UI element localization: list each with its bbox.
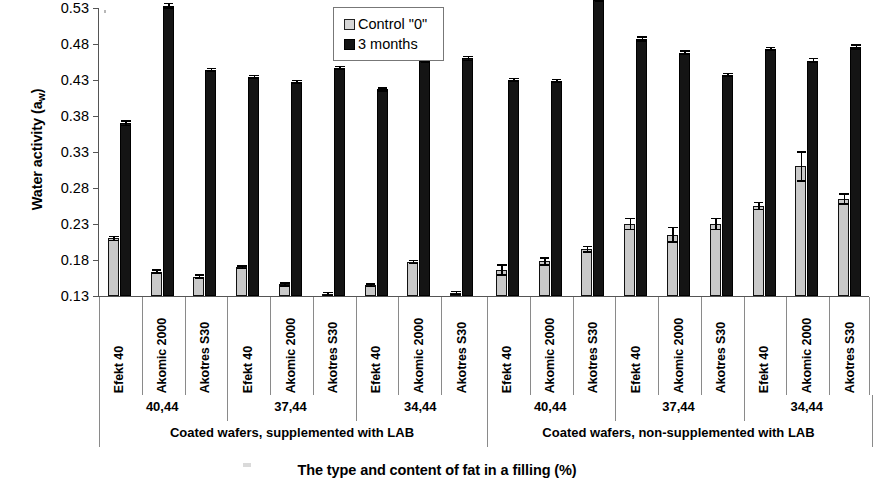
category-separator bbox=[99, 297, 100, 395]
bar-3months bbox=[248, 77, 259, 296]
error-bar-3months bbox=[296, 80, 298, 84]
y-axis-title-subscript: w bbox=[35, 93, 47, 101]
bar-group bbox=[185, 8, 228, 296]
error-bar-control bbox=[413, 260, 415, 264]
category-separator bbox=[185, 297, 186, 395]
legend-item-3months: 3 months bbox=[344, 34, 427, 54]
bar-control bbox=[710, 224, 721, 296]
error-bar-control bbox=[844, 193, 846, 205]
category-label: Akomic 2000 bbox=[543, 318, 557, 393]
bar-control bbox=[407, 262, 418, 296]
bar-3months bbox=[722, 75, 733, 296]
bar-control bbox=[753, 206, 764, 296]
bar-group bbox=[487, 8, 530, 296]
error-bar-control bbox=[327, 292, 329, 296]
bar-3months bbox=[679, 53, 690, 296]
error-bar-3months bbox=[513, 78, 515, 82]
bar-group bbox=[744, 8, 787, 296]
category-separator bbox=[658, 297, 659, 395]
error-bar-control bbox=[544, 257, 546, 266]
bar-3months bbox=[120, 123, 131, 296]
fat-content-label: 40,44 bbox=[486, 399, 614, 414]
category-label: Akotres S30 bbox=[714, 322, 728, 393]
category-label: Efekt 40 bbox=[629, 346, 643, 393]
fat-content-label: 34,44 bbox=[743, 399, 871, 414]
legend-item-control: Control "0" bbox=[344, 14, 427, 34]
bar-group bbox=[829, 8, 872, 296]
error-bar-control bbox=[156, 269, 158, 273]
fat-content-separator bbox=[744, 395, 745, 421]
y-axis-tick-label: 0.23 bbox=[0, 216, 98, 232]
category-label: Akomic 2000 bbox=[800, 318, 814, 393]
y-axis-tick-label: 0.38 bbox=[0, 108, 98, 124]
category-label: Efekt 40 bbox=[369, 346, 383, 393]
treatment-separator bbox=[872, 395, 873, 447]
category-label: Akotres S30 bbox=[326, 322, 340, 393]
bar-3months bbox=[291, 82, 302, 296]
category-separator bbox=[530, 297, 531, 395]
chart-figure: Water activity (aw) 0.130.180.230.280.33… bbox=[0, 0, 874, 497]
error-bar-control bbox=[587, 246, 589, 253]
bar-series-container bbox=[99, 8, 869, 296]
y-axis-tick-label: 0.18 bbox=[0, 252, 98, 268]
bar-control bbox=[236, 267, 247, 296]
control-swatch-icon bbox=[344, 19, 355, 30]
fat-content-label: 37,44 bbox=[226, 399, 354, 414]
category-separator bbox=[270, 297, 271, 395]
bar-3months bbox=[508, 80, 519, 296]
plot-area: 0.130.180.230.280.330.380.430.480.53 bbox=[98, 8, 869, 297]
error-bar-3months bbox=[556, 79, 558, 83]
category-label: Akotres S30 bbox=[586, 322, 600, 393]
error-bar-3months bbox=[339, 66, 341, 70]
category-separator bbox=[786, 297, 787, 395]
error-bar-3months bbox=[684, 50, 686, 54]
error-bar-control bbox=[715, 218, 717, 231]
y-axis-tick-mark bbox=[93, 116, 98, 117]
category-label: Akotres S30 bbox=[843, 322, 857, 393]
error-bar-3months bbox=[125, 120, 127, 126]
category-label: Akomic 2000 bbox=[672, 318, 686, 393]
fat-content-separator bbox=[356, 395, 357, 421]
error-bar-control bbox=[284, 282, 286, 286]
category-label: Akotres S30 bbox=[455, 322, 469, 393]
bar-group bbox=[441, 8, 484, 296]
category-separator bbox=[573, 297, 574, 395]
category-label: Akotres S30 bbox=[198, 322, 212, 393]
error-bar-3months bbox=[254, 75, 256, 79]
category-separator bbox=[487, 297, 488, 395]
category-separator bbox=[313, 297, 314, 395]
bar-group bbox=[142, 8, 185, 296]
category-label: Akomic 2000 bbox=[412, 318, 426, 393]
category-label: Akomic 2000 bbox=[284, 318, 298, 393]
bar-control bbox=[667, 235, 678, 296]
error-bar-3months bbox=[770, 47, 772, 51]
category-separator bbox=[744, 297, 745, 395]
bar-group bbox=[270, 8, 313, 296]
bar-3months bbox=[462, 58, 473, 296]
error-bar-3months bbox=[168, 3, 170, 9]
y-axis-tick-label: 0.53 bbox=[0, 0, 98, 16]
y-axis-tick-mark bbox=[93, 224, 98, 225]
category-label: Efekt 40 bbox=[500, 346, 514, 393]
scan-speck bbox=[104, 10, 106, 13]
bar-3months bbox=[419, 61, 430, 296]
error-bar-control bbox=[758, 202, 760, 211]
y-axis-tick-mark bbox=[93, 188, 98, 189]
y-axis-tick-label: 0.13 bbox=[0, 288, 98, 304]
category-separator bbox=[142, 297, 143, 395]
error-bar-control bbox=[501, 264, 503, 276]
bar-control bbox=[193, 277, 204, 296]
y-axis-tick-mark bbox=[93, 80, 98, 81]
category-separator bbox=[227, 297, 228, 395]
error-bar-control bbox=[672, 227, 674, 243]
category-label-band: Efekt 40Akomic 2000Akotres S30Efekt 40Ak… bbox=[98, 297, 869, 395]
bar-3months bbox=[205, 70, 216, 296]
chart-legend: Control "0" 3 months bbox=[333, 7, 444, 61]
treatment-label: Coated wafers, supplemented with LAB bbox=[98, 425, 486, 440]
error-bar-3months bbox=[642, 36, 644, 42]
x-axis-title: The type and content of fat in a filling… bbox=[0, 462, 874, 478]
category-separator bbox=[398, 297, 399, 395]
bar-control bbox=[539, 261, 550, 296]
error-bar-control bbox=[113, 236, 115, 242]
bar-group bbox=[786, 8, 829, 296]
